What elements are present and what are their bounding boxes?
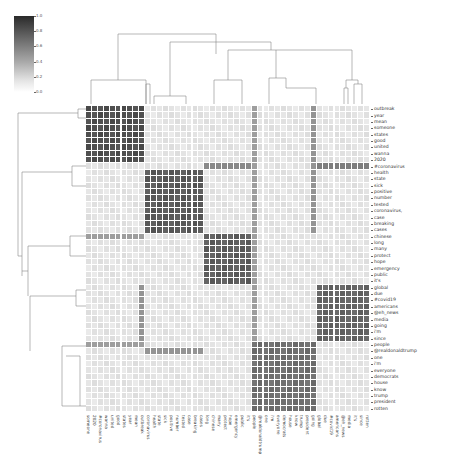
- column-label: #covid19: [329, 415, 334, 435]
- colorbar-tick: 0.0: [36, 90, 42, 94]
- column-label: house: [288, 415, 293, 428]
- row-dendrogram: [0, 106, 86, 412]
- column-label: 2020: [92, 415, 97, 426]
- row-label: outbreak: [374, 106, 395, 112]
- column-dendrogram: [86, 14, 370, 104]
- colorbar-tick: 0.6: [36, 44, 42, 48]
- row-label: united: [374, 144, 389, 150]
- row-label: hope: [374, 259, 385, 265]
- column-label: due: [323, 415, 328, 423]
- row-label: people: [374, 342, 390, 348]
- column-label: @eh_news: [341, 415, 346, 437]
- column-label: trump: [299, 415, 304, 428]
- row-label: media: [374, 317, 388, 323]
- column-label: states: [122, 415, 127, 428]
- row-label: americans: [374, 304, 398, 310]
- row-label: house: [374, 380, 388, 386]
- column-label: public: [240, 415, 245, 428]
- column-label: breaking: [193, 415, 198, 433]
- row-label: state: [374, 176, 386, 182]
- column-label: good: [116, 415, 121, 425]
- column-label: long: [205, 415, 210, 424]
- row-label: positive: [374, 189, 392, 195]
- heatmap-cell: [364, 406, 370, 412]
- heatmap: [86, 106, 370, 412]
- row-label: emergency: [374, 266, 400, 272]
- column-label: people: [252, 415, 257, 429]
- column-label: media: [347, 415, 352, 428]
- column-label: cases: [199, 415, 204, 427]
- column-label: someone: [86, 415, 91, 434]
- column-label: united: [110, 415, 115, 428]
- column-label: going: [311, 415, 316, 427]
- row-label: tested: [374, 202, 389, 208]
- row-label: long: [374, 240, 384, 246]
- row-label: good: [374, 138, 385, 144]
- column-label: many: [217, 415, 222, 427]
- row-label: 2020: [374, 157, 386, 163]
- row-label: #covid19: [374, 297, 396, 303]
- column-label: state: [157, 415, 162, 426]
- row-label: chinese: [374, 234, 392, 240]
- row-label: sick: [374, 183, 383, 189]
- row-label: public: [374, 272, 388, 278]
- column-label: @realdonaldtrump: [258, 415, 263, 454]
- row-label: someone: [374, 125, 395, 131]
- column-label: coronavirus: [146, 415, 151, 439]
- column-label: mean: [134, 415, 139, 427]
- column-label: president: [305, 415, 310, 435]
- column-label: since: [359, 415, 364, 426]
- row-label: mean: [374, 119, 387, 125]
- row-label: year: [374, 113, 384, 119]
- row-label: breaking: [374, 221, 394, 227]
- row-label: trump: [374, 393, 388, 399]
- row-label: know: [374, 387, 386, 393]
- column-label: tested: [181, 415, 186, 428]
- row-label: health: [374, 170, 389, 176]
- column-label: one: [264, 415, 269, 423]
- column-label: wanna: [104, 415, 109, 429]
- row-label: protect: [374, 253, 390, 259]
- row-label: one: [374, 355, 383, 361]
- row-label: i'm: [374, 361, 381, 367]
- row-label: i'm: [374, 329, 381, 335]
- row-label: democrats: [374, 374, 398, 380]
- colorbar-tick: 0.8: [36, 29, 42, 33]
- row-label: it's: [374, 278, 381, 284]
- colorbar-tick: 0.4: [36, 60, 42, 64]
- row-label: cases: [374, 227, 387, 233]
- column-label: emergency: [234, 415, 239, 439]
- row-label: many: [374, 246, 387, 252]
- column-label: hope: [228, 415, 233, 425]
- column-label: #coronavirus: [98, 415, 103, 443]
- row-label: @eh_news: [374, 310, 399, 316]
- row-label: global: [374, 285, 388, 291]
- column-label: protect: [223, 415, 228, 430]
- row-label: case: [374, 215, 385, 221]
- column-label: americans: [335, 415, 340, 437]
- column-label: global: [317, 415, 322, 428]
- column-label: it's: [353, 415, 358, 421]
- row-label: everyone: [374, 368, 396, 374]
- column-label: case: [187, 415, 192, 425]
- column-label: number: [175, 415, 180, 431]
- colorbar-tick: 1.0: [36, 14, 42, 18]
- column-label: democrats: [282, 415, 287, 437]
- row-label: rotten: [374, 406, 388, 412]
- row-label: @realdonaldtrump: [374, 348, 417, 354]
- column-label: rotten: [365, 415, 370, 428]
- column-label: health: [152, 415, 157, 428]
- column-label: year: [128, 415, 133, 424]
- column-label: i'm: [270, 415, 275, 421]
- column-label: it's: [246, 415, 251, 421]
- row-label: going: [374, 323, 387, 329]
- row-label: number: [374, 195, 392, 201]
- column-label: outbreak: [140, 415, 145, 434]
- column-label: chinese: [211, 415, 216, 431]
- row-label: coronavirus,: [374, 208, 402, 214]
- row-label: #coronavirus: [374, 164, 405, 170]
- row-label: since: [374, 336, 386, 342]
- column-label: know: [294, 415, 299, 426]
- row-label: president: [374, 399, 396, 405]
- column-label: sick: [163, 415, 168, 423]
